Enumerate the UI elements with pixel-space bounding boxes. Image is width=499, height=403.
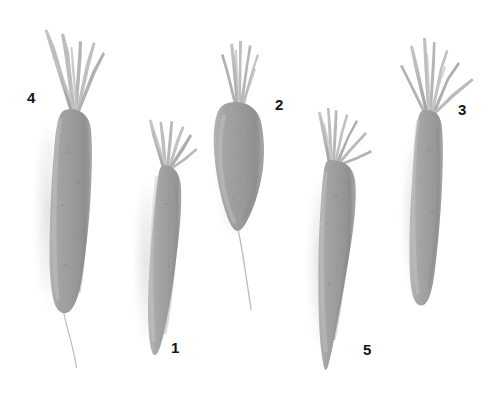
carrot-specimen-figure: 4 1 2 3 5: [0, 0, 499, 403]
specimen-label-4: 4: [27, 90, 35, 105]
specimen-label-3: 3: [458, 102, 466, 117]
specimen-label-5: 5: [363, 342, 371, 357]
specimen-label-2: 2: [275, 97, 283, 112]
figure-illustration: [0, 0, 499, 403]
specimen-label-1: 1: [171, 340, 179, 355]
